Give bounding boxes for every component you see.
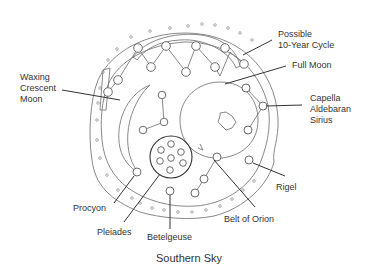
label-waxing-crescent-line1: Waxing xyxy=(20,72,50,82)
star xyxy=(104,88,113,97)
label-possible-cycle-line2: 10-Year Cycle xyxy=(278,40,334,50)
label-waxing-crescent-line3: Moon xyxy=(20,94,43,104)
label-possible-cycle-line1: Possible xyxy=(278,29,312,39)
star xyxy=(162,42,171,51)
star xyxy=(182,68,191,77)
label-rigel: Rigel xyxy=(276,182,297,192)
procyon-star xyxy=(133,168,141,176)
perimeter-holes xyxy=(96,23,256,214)
star xyxy=(134,44,143,53)
label-full-moon: Full Moon xyxy=(292,60,332,70)
full-moon-damage xyxy=(218,112,236,130)
label-pleiades: Pleiades xyxy=(97,227,132,237)
diagram-caption: Southern Sky xyxy=(156,252,223,264)
full-moon-mark xyxy=(198,144,203,150)
label-betelgeuse: Betelgeuse xyxy=(147,232,192,242)
small-constellation xyxy=(139,91,168,134)
star xyxy=(114,76,123,85)
betelgeuse-star xyxy=(166,187,174,195)
label-sirius: Sirius xyxy=(310,115,333,125)
star xyxy=(211,63,220,72)
rigel-star xyxy=(245,156,253,164)
label-waxing-crescent-line2: Crescent xyxy=(20,83,57,93)
star xyxy=(192,42,201,51)
star xyxy=(221,44,230,53)
pleiades-cluster xyxy=(150,136,192,178)
label-aldebaran: Aldebaran xyxy=(310,104,351,114)
nebra-sky-disc-diagram: Waxing Crescent Moon Possible 10-Year Cy… xyxy=(0,0,371,268)
sky-disc xyxy=(90,23,278,219)
diagram-labels: Waxing Crescent Moon Possible 10-Year Cy… xyxy=(20,29,351,264)
star xyxy=(240,60,249,69)
star xyxy=(147,63,156,72)
label-procyon: Procyon xyxy=(73,203,106,213)
label-belt-of-orion: Belt of Orion xyxy=(224,214,274,224)
label-capella: Capella xyxy=(310,93,341,103)
belt-of-orion xyxy=(191,153,221,197)
